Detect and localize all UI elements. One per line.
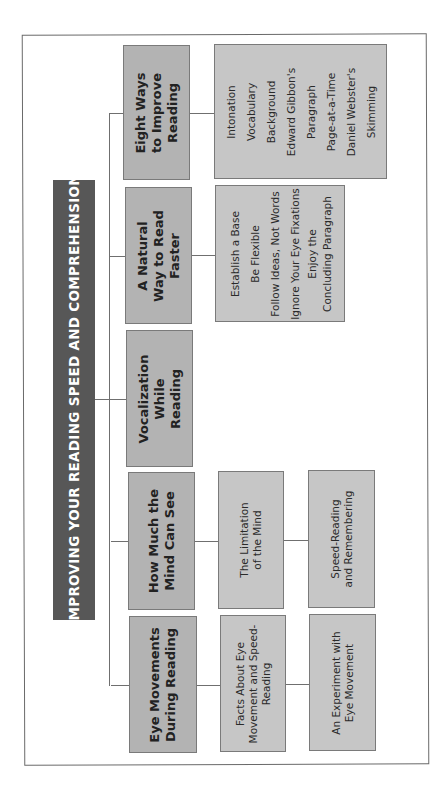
list-item: Intonation — [221, 85, 241, 139]
diagram-title: IMPROVING YOUR READING SPEED AND COMPREH… — [66, 180, 82, 620]
topic-eight-ways: Eight Ways to Improve Reading — [123, 45, 190, 180]
connector-limitation-to-remembering — [284, 540, 308, 541]
subtopic-label-line: The Limitation — [238, 502, 251, 577]
connector-trunk — [109, 113, 110, 686]
subtopic-label-line: Reading — [260, 662, 273, 705]
list-item: Skimming — [361, 85, 381, 137]
connector-trunk-to-eight-ways — [109, 113, 124, 114]
list-item: Concluding Paragraph — [320, 196, 335, 312]
subtopic-limitation-of-mind: The Limitation of the Mind — [218, 471, 284, 609]
topic-label-line: Mind Can See — [162, 491, 178, 591]
connector-trunk-to-how-much — [111, 541, 128, 542]
subtopic-eight-ways-list: Intonation Vocabulary Background Edward … — [214, 44, 387, 179]
topic-natural-way: A Natural Way to Read Faster — [125, 187, 192, 324]
connector-eye-movements-to-facts — [197, 685, 220, 686]
list-item: Daniel Webster's — [341, 67, 361, 155]
subtopic-label-line: of the Mind — [251, 510, 264, 569]
subtopic-label-line: Speed-Reading — [329, 499, 342, 578]
topic-label-line: Reading — [165, 83, 181, 143]
subtopic-label-line: An Experiment with — [330, 631, 343, 734]
list-item: Establish a Base — [225, 211, 245, 297]
topic-label-line: During Reading — [163, 628, 179, 742]
topic-eye-movements: Eye Movements During Reading — [129, 616, 197, 753]
topic-label-line: to Improve — [149, 73, 165, 153]
topic-label-line: Reading — [168, 369, 184, 429]
list-item: Vocabulary — [241, 82, 261, 140]
list-item: Paragraph — [301, 85, 321, 139]
topic-vocalization: Vocalization While Reading — [126, 330, 193, 467]
topic-label-line: A Natural — [135, 221, 151, 290]
connector-eight-ways-to-list — [190, 113, 214, 114]
subtopic-label-line: Eye Movement — [343, 643, 356, 721]
topic-label-line: While — [152, 378, 168, 419]
subtopic-experiment-eye-movement: An Experiment with Eye Movement — [309, 614, 376, 751]
subtopic-speed-reading-remembering: Speed-Reading and Remembering — [308, 470, 375, 608]
list-item: Page-at-a-Time — [321, 72, 341, 151]
list-item: Enjoy the — [305, 229, 320, 278]
topic-label-line: Faster — [167, 232, 183, 278]
connector-natural-to-list — [192, 255, 215, 256]
subtopic-facts-about-eye-movement: Facts About Eye Movement and Speed- Read… — [220, 615, 286, 752]
subtopic-label-line: Movement and Speed- — [247, 624, 260, 743]
topic-label-line: Vocalization — [136, 354, 152, 443]
topic-label-line: Eye Movements — [147, 627, 163, 742]
connector-trunk-to-natural — [109, 256, 125, 257]
list-item: Edward Gibbon's — [281, 67, 301, 155]
topic-how-much-mind-can-see: How Much the Mind Can See — [128, 472, 195, 610]
connector-facts-to-experiment — [286, 684, 309, 685]
connector-title-to-trunk — [95, 399, 127, 400]
list-item: Be Flexible — [245, 225, 265, 282]
list-item: Follow Ideas, Not Words — [265, 191, 285, 316]
title-bar: IMPROVING YOUR READING SPEED AND COMPREH… — [53, 180, 95, 620]
connector-how-much-to-limitation — [195, 541, 218, 542]
list-item: Ignore Your Eye Fixations — [285, 188, 305, 320]
topic-label-line: How Much the — [146, 489, 162, 593]
topic-label-line: Eight Ways — [133, 72, 149, 153]
list-item: Background — [261, 80, 281, 143]
subtopic-label-line: Facts About Eye — [234, 642, 247, 726]
subtopic-label-line: and Remembering — [342, 491, 355, 588]
connector-trunk-to-eye-movements — [111, 685, 129, 686]
subtopic-natural-way-list: Establish a Base Be Flexible Follow Idea… — [215, 185, 345, 322]
topic-label-line: Way to Read — [151, 210, 167, 302]
